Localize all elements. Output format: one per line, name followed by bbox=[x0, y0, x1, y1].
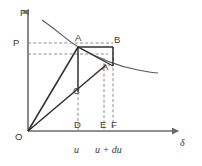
point-label-a: A bbox=[75, 33, 81, 43]
point-label-d: D bbox=[74, 120, 81, 130]
segment-o-a-prime bbox=[28, 65, 106, 131]
force-displacement-figure: F δ O P A B A′ C D E F u u + du bbox=[0, 0, 202, 166]
origin-label: O bbox=[15, 132, 22, 142]
segment-o-a bbox=[28, 47, 78, 131]
y-axis-label: F bbox=[20, 8, 26, 18]
point-label-f: F bbox=[111, 120, 117, 130]
point-label-c: C bbox=[73, 86, 80, 96]
figure-canvas bbox=[0, 0, 202, 166]
point-label-e: E bbox=[100, 120, 106, 130]
displacement-increment-tick-label: u + du bbox=[95, 145, 122, 155]
x-axis-label: δ bbox=[180, 138, 185, 148]
point-label-b: B bbox=[114, 35, 120, 45]
displacement-tick-label: u bbox=[74, 145, 79, 155]
point-label-a-prime: A′ bbox=[102, 62, 110, 72]
load-level-label: P bbox=[13, 38, 19, 48]
